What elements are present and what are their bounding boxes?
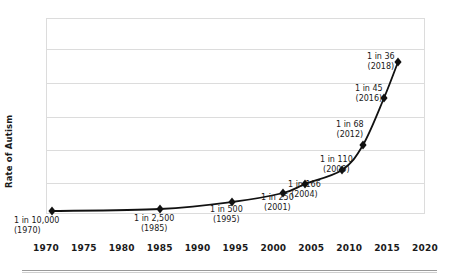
- data-point-year: (2016): [355, 94, 383, 104]
- data-point-marker: [48, 207, 55, 216]
- data-point-year: (1995): [210, 215, 243, 225]
- data-point-label: 1 in 10,000(1970): [14, 216, 59, 236]
- data-point-label: 1 in 166(2004): [288, 180, 321, 200]
- data-point-year: (1985): [134, 224, 174, 234]
- data-point-year: (2004): [288, 190, 321, 200]
- data-point-label: 1 in 500(1995): [210, 205, 243, 225]
- data-point-rate: 1 in 68: [336, 120, 364, 130]
- autism-rate-chart: Rate of Autism 1970197519801985199019952…: [0, 0, 457, 279]
- data-point-label: 1 in 68(2012): [336, 120, 364, 140]
- data-point-rate: 1 in 166: [288, 180, 321, 190]
- series-layer: [0, 0, 457, 279]
- data-point-rate: 1 in 2,500: [134, 214, 174, 224]
- data-point-year: (2018): [367, 62, 395, 72]
- data-point-label: 1 in 45(2016): [355, 84, 383, 104]
- data-point-year: (2009): [320, 165, 353, 175]
- data-point-marker: [156, 205, 163, 214]
- data-point-rate: 1 in 45: [355, 84, 383, 94]
- data-point-year: (2012): [336, 130, 364, 140]
- data-point-year: (1970): [14, 226, 59, 236]
- data-point-label: 1 in 2,500(1985): [134, 214, 174, 234]
- x-axis-tick-label: 2020: [402, 243, 448, 253]
- data-point-rate: 1 in 500: [210, 205, 243, 215]
- data-point-marker: [394, 58, 401, 67]
- data-point-rate: 1 in 110: [320, 155, 353, 165]
- bottom-rule: [22, 270, 437, 271]
- data-point-rate: 1 in 10,000: [14, 216, 59, 226]
- bottom-rule-secondary: [22, 272, 437, 273]
- data-point-label: 1 in 110(2009): [320, 155, 353, 175]
- data-point-year: (2001): [261, 203, 294, 213]
- data-point-label: 1 in 36(2018): [367, 52, 395, 72]
- data-point-rate: 1 in 36: [367, 52, 395, 62]
